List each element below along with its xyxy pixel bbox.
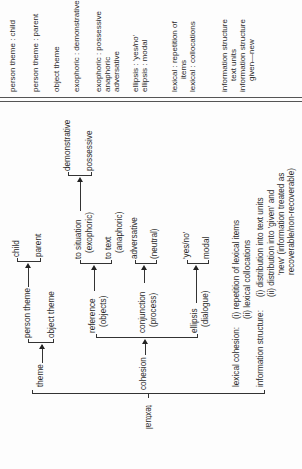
arrow-icon — [39, 344, 45, 349]
arrow-icon — [142, 339, 148, 344]
theme-label: theme — [36, 364, 46, 387]
reference-label: reference — [88, 298, 98, 333]
yes-no-label: 'yes/no' — [182, 232, 192, 259]
object-theme-label: object theme — [47, 291, 57, 338]
column-separator — [0, 97, 302, 102]
info-item-4: recoverable/non-recoverable) — [287, 168, 297, 275]
arrow-icon — [91, 265, 97, 270]
information-structure-label: information structure: — [256, 310, 266, 387]
arrow-icon — [141, 265, 147, 270]
lexical-item-1: (i) repetition of lexical items — [232, 220, 242, 319]
rc-item: lexical : collocations — [188, 21, 198, 92]
arrow-icon — [25, 263, 31, 268]
info-item-3: 'new' (information treated as — [277, 173, 287, 275]
ellipsis-label: ellipsis — [190, 308, 200, 333]
rc-item: adversative — [112, 51, 122, 92]
cohesion-label: cohesion — [139, 357, 149, 390]
adversative-label: adversative — [130, 217, 140, 259]
rc-item: object theme — [52, 46, 62, 92]
possessive-label: possessive — [85, 130, 95, 171]
modal-label: modal — [202, 237, 212, 259]
exophoric-label: (exophoric) — [85, 212, 95, 253]
process-label: (process) — [149, 293, 159, 327]
rc-item: given—new — [247, 39, 257, 81]
rc-item: exophoric : demonstrative — [72, 0, 82, 92]
rotated-page: textual theme person theme object theme … — [0, 0, 302, 469]
rc-item: lexical : repetition of — [170, 21, 180, 92]
child-label: child — [12, 240, 22, 257]
neutral-label: (neutral) — [150, 229, 160, 260]
textual-label: textual — [143, 405, 153, 429]
person-theme-label: person theme — [23, 288, 33, 338]
to-text-label: to text — [104, 237, 114, 259]
info-item-1: (i) distribution into text units — [256, 197, 266, 297]
lexical-cohesion-label: lexical cohesion: — [232, 327, 242, 387]
info-item-2: (ii) distribution into 'given' and — [267, 190, 277, 297]
rc-item: person theme : parent — [31, 14, 41, 92]
rc-item: person theme : child — [8, 20, 18, 92]
rc-item: ellipsis : modal — [140, 40, 150, 92]
to-situation-label: to situation — [74, 219, 84, 259]
anaphoric-label: (anaphoric) — [115, 212, 125, 253]
demonstrative-label: demonstrative — [63, 120, 73, 171]
arrow-icon — [193, 265, 199, 270]
parent-label: parent — [34, 234, 44, 257]
reference-sublabel: (objects) — [99, 296, 109, 327]
lexical-item-2: (ii) lexical collocations — [243, 240, 253, 319]
conjunction-label: conjunction — [138, 292, 148, 333]
dialogue-label: (dialogue) — [201, 291, 211, 327]
arrow-icon — [77, 177, 83, 182]
